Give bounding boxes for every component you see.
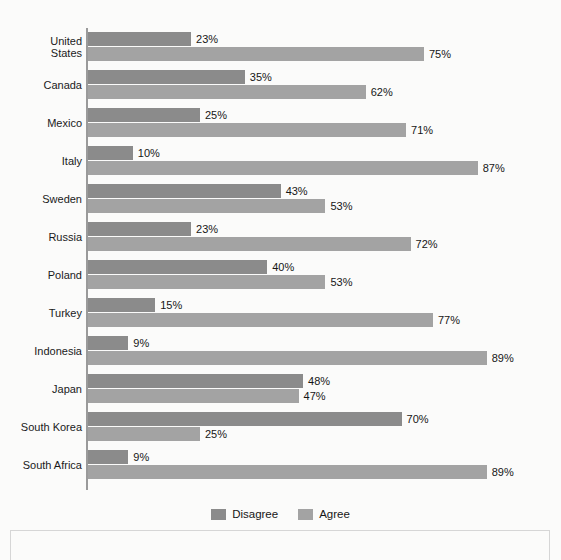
- bar-disagree: [88, 336, 128, 350]
- category-label: Canada: [0, 66, 82, 104]
- legend-label: Agree: [319, 508, 350, 520]
- bar-group: Italy10%87%: [0, 142, 561, 180]
- bar-agree: [88, 85, 366, 99]
- bar-row-agree: 53%: [88, 275, 558, 289]
- bar-agree: [88, 389, 299, 403]
- bar-group: South Korea70%25%: [0, 408, 561, 446]
- bar-value-label: 62%: [366, 85, 393, 99]
- category-label: Mexico: [0, 104, 82, 142]
- bar-group: Japan48%47%: [0, 370, 561, 408]
- bar-value-label: 9%: [128, 450, 149, 464]
- bar-group: Turkey15%77%: [0, 294, 561, 332]
- bar-value-label: 10%: [133, 146, 160, 160]
- bar-row-disagree: 15%: [88, 298, 558, 312]
- bar-value-label: 87%: [478, 161, 505, 175]
- bar-value-label: 71%: [406, 123, 433, 137]
- bar-agree: [88, 47, 424, 61]
- bar-disagree: [88, 32, 191, 46]
- bar-value-label: 53%: [325, 199, 352, 213]
- bar-row-disagree: 35%: [88, 70, 558, 84]
- bar-agree: [88, 351, 487, 365]
- bar-row-agree: 89%: [88, 351, 558, 365]
- bar-row-disagree: 70%: [88, 412, 558, 426]
- bar-row-agree: 53%: [88, 199, 558, 213]
- bar-row-agree: 71%: [88, 123, 558, 137]
- bar-value-label: 48%: [303, 374, 330, 388]
- bar-disagree: [88, 184, 281, 198]
- bar-value-label: 72%: [411, 237, 438, 251]
- bar-row-agree: 77%: [88, 313, 558, 327]
- legend-swatch-icon: [298, 509, 313, 520]
- bar-disagree: [88, 450, 128, 464]
- bar-row-agree: 89%: [88, 465, 558, 479]
- bar-row-agree: 47%: [88, 389, 558, 403]
- legend-label: Disagree: [232, 508, 278, 520]
- bar-group: South Africa9%89%: [0, 446, 561, 484]
- category-label: Russia: [0, 218, 82, 256]
- bar-disagree: [88, 298, 155, 312]
- category-label: South Korea: [0, 408, 82, 446]
- category-label: United States: [0, 28, 82, 66]
- bar-disagree: [88, 146, 133, 160]
- bar-row-disagree: 10%: [88, 146, 558, 160]
- category-label: South Africa: [0, 446, 82, 484]
- bar-agree: [88, 313, 433, 327]
- bar-row-agree: 87%: [88, 161, 558, 175]
- bar-value-label: 15%: [155, 298, 182, 312]
- bar-disagree: [88, 108, 200, 122]
- bar-row-disagree: 23%: [88, 32, 558, 46]
- category-label: Turkey: [0, 294, 82, 332]
- bar-row-disagree: 9%: [88, 336, 558, 350]
- category-label: Sweden: [0, 180, 82, 218]
- bar-value-label: 35%: [245, 70, 272, 84]
- bar-row-disagree: 43%: [88, 184, 558, 198]
- bar-disagree: [88, 70, 245, 84]
- bar-disagree: [88, 260, 267, 274]
- bar-value-label: 89%: [487, 351, 514, 365]
- bar-group: United States23%75%: [0, 28, 561, 66]
- bar-row-disagree: 9%: [88, 450, 558, 464]
- bar-value-label: 23%: [191, 32, 218, 46]
- bar-row-disagree: 23%: [88, 222, 558, 236]
- bar-value-label: 89%: [487, 465, 514, 479]
- bar-row-agree: 75%: [88, 47, 558, 61]
- bar-row-agree: 25%: [88, 427, 558, 441]
- bar-value-label: 9%: [128, 336, 149, 350]
- chart-legend: DisagreeAgree: [0, 503, 561, 525]
- bar-value-label: 25%: [200, 427, 227, 441]
- bar-value-label: 40%: [267, 260, 294, 274]
- bar-agree: [88, 465, 487, 479]
- legend-item-disagree[interactable]: Disagree: [211, 508, 278, 520]
- bar-row-agree: 72%: [88, 237, 558, 251]
- legend-item-agree[interactable]: Agree: [298, 508, 350, 520]
- bar-group: Canada35%62%: [0, 66, 561, 104]
- legend-swatch-icon: [211, 509, 226, 520]
- bar-value-label: 70%: [402, 412, 429, 426]
- bar-value-label: 43%: [281, 184, 308, 198]
- bar-row-disagree: 25%: [88, 108, 558, 122]
- bar-value-label: 75%: [424, 47, 451, 61]
- bar-value-label: 23%: [191, 222, 218, 236]
- bar-disagree: [88, 222, 191, 236]
- bar-group: Indonesia9%89%: [0, 332, 561, 370]
- bar-group: Mexico25%71%: [0, 104, 561, 142]
- category-label: Poland: [0, 256, 82, 294]
- bar-agree: [88, 237, 411, 251]
- bar-row-disagree: 40%: [88, 260, 558, 274]
- bar-value-label: 47%: [299, 389, 326, 403]
- bar-group: Russia23%72%: [0, 218, 561, 256]
- category-label: Italy: [0, 142, 82, 180]
- bottom-frame-border: [10, 530, 550, 560]
- bar-agree: [88, 123, 406, 137]
- bar-group: Poland40%53%: [0, 256, 561, 294]
- category-label: Japan: [0, 370, 82, 408]
- bar-agree: [88, 427, 200, 441]
- bar-agree: [88, 275, 325, 289]
- bar-agree: [88, 161, 478, 175]
- bar-value-label: 53%: [325, 275, 352, 289]
- bar-agree: [88, 199, 325, 213]
- bar-disagree: [88, 374, 303, 388]
- bar-row-disagree: 48%: [88, 374, 558, 388]
- bar-disagree: [88, 412, 402, 426]
